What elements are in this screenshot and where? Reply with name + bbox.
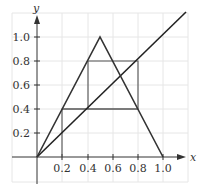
y-axis-label: y [32, 2, 40, 15]
x-tick-label: 1.0 [154, 162, 172, 175]
x-tick-label: 0.6 [104, 162, 122, 175]
y-tick-label: 0.2 [13, 127, 31, 140]
x-axis-label: x [190, 151, 197, 164]
cobweb-orbit [62, 61, 138, 157]
x-tick-label: 0.8 [129, 162, 147, 175]
x-axis-arrow-icon [177, 154, 186, 160]
y-tick-label: 1.0 [13, 31, 31, 44]
y-tick-label: 0.4 [13, 103, 31, 116]
x-tick-label: 0.2 [53, 162, 71, 175]
y-tick-label: 0.6 [13, 79, 31, 92]
y-tick-label: 0.8 [13, 55, 31, 68]
y-axis-arrow-icon [34, 15, 40, 24]
tent-map-cobweb-chart: 0.2 0.4 0.6 0.8 1.0 0.2 0.4 0.6 0.8 1.0 … [0, 0, 198, 187]
x-tick-label: 0.4 [79, 162, 97, 175]
